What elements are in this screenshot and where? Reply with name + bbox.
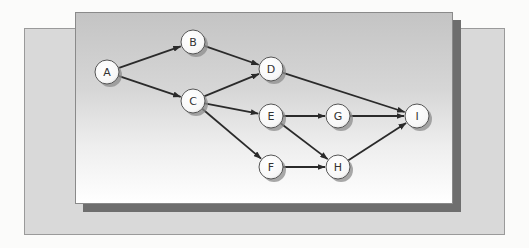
nodes-layer: ABCDEFGHI	[95, 30, 432, 182]
node-i: I	[405, 104, 432, 131]
node-d: D	[259, 57, 286, 84]
node-a: A	[95, 60, 122, 87]
node-c: C	[181, 89, 208, 116]
node-label: H	[334, 161, 342, 174]
node-g: G	[326, 104, 353, 131]
edge-b-d	[204, 46, 258, 65]
node-label: G	[334, 110, 343, 123]
edge-c-d	[204, 74, 259, 97]
node-label: F	[268, 161, 274, 174]
network-graph: ABCDEFGHI	[0, 0, 529, 248]
edge-h-i	[348, 123, 406, 160]
node-b: B	[181, 30, 208, 57]
node-label: E	[268, 110, 275, 123]
node-e: E	[259, 104, 286, 131]
diagram-canvas: ABCDEFGHI	[0, 0, 529, 248]
edge-a-c	[118, 76, 180, 97]
node-label: I	[415, 110, 418, 123]
edge-c-f	[202, 109, 261, 159]
node-label: B	[189, 36, 197, 49]
node-label: D	[267, 63, 275, 76]
node-label: C	[189, 95, 197, 108]
edge-a-b	[118, 46, 180, 68]
edge-e-h	[281, 123, 328, 159]
node-label: A	[103, 66, 111, 79]
node-f: F	[259, 155, 286, 182]
edge-c-e	[205, 103, 258, 113]
